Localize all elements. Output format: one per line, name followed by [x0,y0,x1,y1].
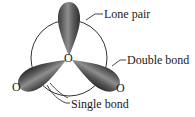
atom-right-label: O [116,81,125,95]
atom-left-label: O [12,80,21,94]
double-bond-leader [112,60,126,66]
atom-center-label: O [64,51,73,65]
lone-pair-label: Lone pair [104,7,150,21]
lone-pair-lobe [58,2,80,56]
single-bond-label: Single bond [71,97,129,111]
lone-pair-leader [86,14,103,20]
single-bond-lobe [14,50,72,96]
double-bond-label: Double bond [127,53,189,67]
ozone-orbital-diagram: O O O Lone pair Double bond Single bond [0,0,195,117]
